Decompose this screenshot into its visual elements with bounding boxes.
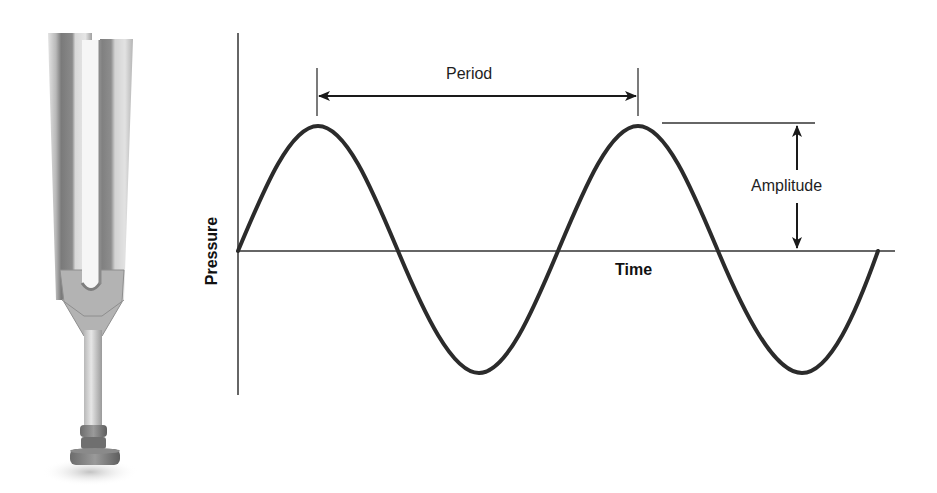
sine-wave	[238, 126, 878, 373]
period-label: Period	[446, 65, 492, 83]
y-axis-label: Pressure	[203, 217, 221, 286]
amplitude-label: Amplitude	[751, 177, 822, 195]
x-axis-label: Time	[615, 261, 652, 279]
sound-wave-diagram: Period Amplitude Time Pressure	[0, 0, 937, 493]
